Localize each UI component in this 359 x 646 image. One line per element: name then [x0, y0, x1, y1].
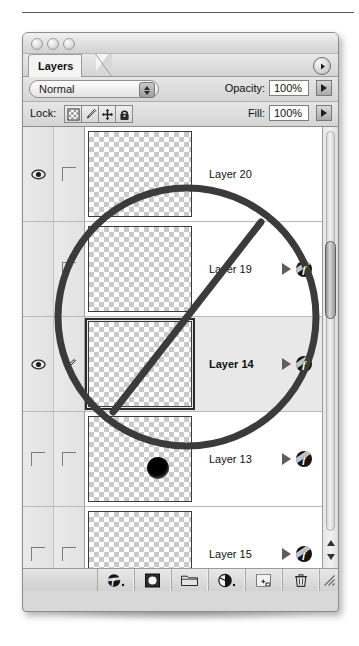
layer-link-cell[interactable]	[54, 507, 85, 568]
layer-thumbnail[interactable]	[88, 131, 192, 217]
toolbar-spacer	[23, 569, 97, 591]
layer-name[interactable]: Layer 20	[200, 127, 282, 221]
close-window-icon[interactable]	[31, 38, 43, 50]
layer-visibility-cell[interactable]	[23, 317, 54, 411]
tab-layers[interactable]: Layers	[28, 54, 82, 77]
layer-name[interactable]: Layer 19	[200, 222, 282, 316]
layer-name[interactable]: Layer 13	[200, 412, 282, 506]
opacity-label: Opacity:	[225, 82, 265, 94]
layer-thumbnail[interactable]	[88, 416, 192, 502]
fx-circle-icon[interactable]: f	[296, 546, 312, 562]
fx-circle-icon[interactable]: f	[296, 261, 312, 277]
layers-bottom-toolbar: f	[23, 568, 338, 591]
blend-options-row: Normal Opacity: 100%	[23, 77, 338, 102]
lock-all-button[interactable]	[115, 105, 133, 123]
layer-visibility-cell[interactable]	[23, 507, 54, 568]
tab-slant-decoration	[96, 54, 112, 77]
lock-options-row: Lock:	[23, 102, 338, 127]
blend-mode-value: Normal	[39, 83, 74, 95]
minimize-window-icon[interactable]	[47, 38, 59, 50]
new-layer-button[interactable]	[245, 569, 282, 591]
link-corner-icon	[62, 262, 76, 276]
panel-tabstrip: Layers	[23, 54, 338, 77]
layer-thumbnail-cell[interactable]	[85, 507, 200, 568]
page-horizontal-rule	[22, 12, 354, 13]
layer-thumbnail[interactable]	[88, 226, 192, 312]
lock-button-group	[64, 105, 132, 123]
palette-menu-icon[interactable]	[313, 57, 331, 75]
stepper-up-arrow-icon	[144, 86, 150, 90]
blend-mode-select[interactable]: Normal	[29, 80, 159, 98]
layer-link-cell[interactable]	[54, 127, 85, 221]
layer-visibility-cell[interactable]	[23, 127, 54, 221]
lock-label: Lock:	[30, 107, 56, 119]
expand-effects-triangle-icon[interactable]	[282, 358, 291, 370]
link-corner-icon	[62, 547, 76, 561]
scrollbar-thumb[interactable]	[325, 241, 336, 319]
layer-row[interactable]: Layer 19 f	[23, 222, 338, 317]
eye-icon[interactable]	[31, 169, 46, 180]
layer-list[interactable]: Layer 20 Layer 19 f	[23, 127, 338, 568]
layer-visibility-cell[interactable]	[23, 222, 54, 316]
scroll-down-arrow-icon[interactable]	[326, 551, 336, 562]
expand-effects-triangle-icon[interactable]	[282, 548, 291, 560]
fx-circle-icon[interactable]: f	[296, 451, 312, 467]
new-adjustment-layer-button[interactable]	[208, 569, 245, 591]
layer-row[interactable]: Layer 14 f	[23, 317, 338, 412]
expand-effects-triangle-icon[interactable]	[282, 453, 291, 465]
resize-grip-icon[interactable]	[319, 569, 338, 591]
layer-thumbnail-cell[interactable]	[85, 222, 200, 316]
new-group-button[interactable]	[171, 569, 208, 591]
layer-thumbnail-cell[interactable]	[85, 412, 200, 506]
lock-image-pixels-button[interactable]	[81, 105, 99, 123]
opacity-control: Opacity: 100%	[225, 80, 332, 96]
vertical-scrollbar[interactable]	[322, 127, 338, 568]
layer-thumbnail[interactable]	[88, 511, 192, 568]
thumbnail-content-blob	[147, 457, 169, 479]
window-titlebar	[23, 33, 338, 54]
opacity-value: 100%	[274, 82, 302, 94]
layer-row[interactable]: Layer 20	[23, 127, 338, 222]
fx-circle-icon[interactable]: f	[296, 356, 312, 372]
fill-slider-arrow-icon[interactable]	[316, 105, 332, 121]
fill-label: Fill:	[248, 107, 265, 119]
layer-row[interactable]: Layer 15 f	[23, 507, 338, 568]
eye-icon[interactable]	[31, 359, 46, 370]
layers-palette-window: Layers Normal Opacity: 100% Lock:	[22, 32, 339, 612]
layer-visibility-cell[interactable]	[23, 412, 54, 506]
opacity-input[interactable]: 100%	[269, 80, 309, 96]
scrollbar-track[interactable]	[326, 131, 335, 531]
fill-control: Fill: 100%	[248, 105, 332, 121]
link-corner-icon	[62, 167, 76, 181]
fill-value: 100%	[274, 107, 302, 119]
stepper-down-arrow-icon	[144, 91, 150, 95]
add-layer-mask-button[interactable]	[134, 569, 171, 591]
scroll-up-arrow-icon[interactable]	[326, 537, 336, 548]
layer-name[interactable]: Layer 15	[200, 507, 282, 568]
lock-transparent-pixels-button[interactable]	[64, 105, 82, 123]
visibility-corner-icon	[31, 547, 45, 561]
zoom-window-icon[interactable]	[63, 38, 75, 50]
expand-effects-triangle-icon[interactable]	[282, 263, 291, 275]
link-corner-icon	[62, 452, 76, 466]
add-layer-style-button[interactable]: f	[97, 569, 134, 591]
paintbrush-icon[interactable]	[62, 358, 77, 371]
lock-position-button[interactable]	[98, 105, 116, 123]
updown-stepper-icon[interactable]	[139, 82, 155, 98]
tab-layers-label: Layers	[38, 60, 73, 72]
layer-thumbnail-cell[interactable]	[85, 317, 200, 411]
fill-input[interactable]: 100%	[269, 105, 309, 121]
layer-thumbnail-cell[interactable]	[85, 127, 200, 221]
layer-link-cell[interactable]	[54, 222, 85, 316]
layer-link-cell[interactable]	[54, 412, 85, 506]
opacity-slider-arrow-icon[interactable]	[316, 80, 332, 96]
layer-thumbnail[interactable]	[88, 321, 192, 407]
visibility-corner-icon	[31, 452, 45, 466]
delete-layer-button[interactable]	[282, 569, 319, 591]
layer-name[interactable]: Layer 14	[200, 317, 282, 411]
layer-link-cell[interactable]	[54, 317, 85, 411]
layer-row[interactable]: Layer 13 f	[23, 412, 338, 507]
